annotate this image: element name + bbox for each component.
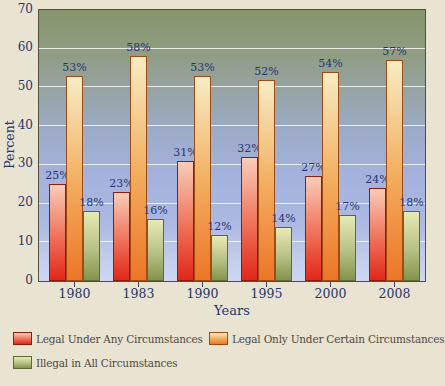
bar-value-label: 14% [267,212,300,225]
x-tick-label: 1980 [49,286,100,301]
y-tick-label: 20 [18,195,33,210]
bar-value-label: 12% [203,220,236,233]
legend-swatch-red [13,332,32,345]
gridline [39,48,425,49]
bar-1980-series1 [66,76,83,281]
legend-swatch-green [13,356,32,369]
bar-1995-series2 [275,227,292,281]
legend-label: Legal Under Any Circumstances [36,333,203,345]
bar-1983-series1 [130,56,147,281]
x-axis: 198019831990199520002008 [39,286,425,302]
plot-area: 25%53%18%23%58%16%31%53%12%32%52%14%27%5… [38,9,426,282]
legend-item-legal-certain: Legal Only Under Certain Circumstances [209,332,445,345]
x-tick-label: 2008 [369,286,420,301]
legend-swatch-orange [209,332,228,345]
x-tick-label: 1983 [113,286,164,301]
bar-1990-series2 [211,235,228,281]
legend-item-illegal-all: Illegal in All Circumstances [13,356,177,369]
bar-2008-series1 [386,60,403,281]
bar-value-label: 17% [331,200,364,213]
bar-2008-series2 [403,211,420,281]
bar-value-label: 58% [122,41,155,54]
bar-2008-series0 [369,188,386,281]
bar-value-label: 53% [58,61,91,74]
legend-label: Illegal in All Circumstances [36,357,177,369]
x-tick-label: 2000 [305,286,356,301]
y-tick-label: 10 [18,234,33,249]
y-tick-label: 50 [18,79,33,94]
bar-value-label: 52% [250,65,283,78]
x-axis-title: Years [39,303,425,318]
bar-value-label: 18% [395,196,428,209]
y-tick-label: 70 [18,2,33,17]
bar-1983-series2 [147,219,164,281]
bar-1980-series2 [83,211,100,281]
bar-value-label: 16% [139,204,172,217]
gridline [39,164,425,165]
bar-value-label: 57% [378,45,411,58]
bar-1990-series0 [177,161,194,281]
bar-value-label: 54% [314,57,347,70]
bar-1990-series1 [194,76,211,281]
legend-item-legal-any: Legal Under Any Circumstances [13,332,203,345]
y-tick-label: 40 [18,118,33,133]
bar-1983-series0 [113,192,130,281]
gridline [39,125,425,126]
bar-2000-series2 [339,215,356,281]
y-axis: 010203040506070 [0,9,33,280]
bar-1995-series1 [258,80,275,281]
y-tick-label: 0 [25,273,33,288]
x-tick-label: 1990 [177,286,228,301]
bar-value-label: 18% [75,196,108,209]
bar-1995-series0 [241,157,258,281]
bar-2000-series0 [305,176,322,281]
x-tick-label: 1995 [241,286,292,301]
bar-2000-series1 [322,72,339,281]
gridline [39,86,425,87]
bar-1980-series0 [49,184,66,281]
y-tick-label: 60 [18,40,33,55]
bar-value-label: 53% [186,61,219,74]
legend-label: Legal Only Under Certain Circumstances [232,333,445,345]
y-tick-label: 30 [18,156,33,171]
